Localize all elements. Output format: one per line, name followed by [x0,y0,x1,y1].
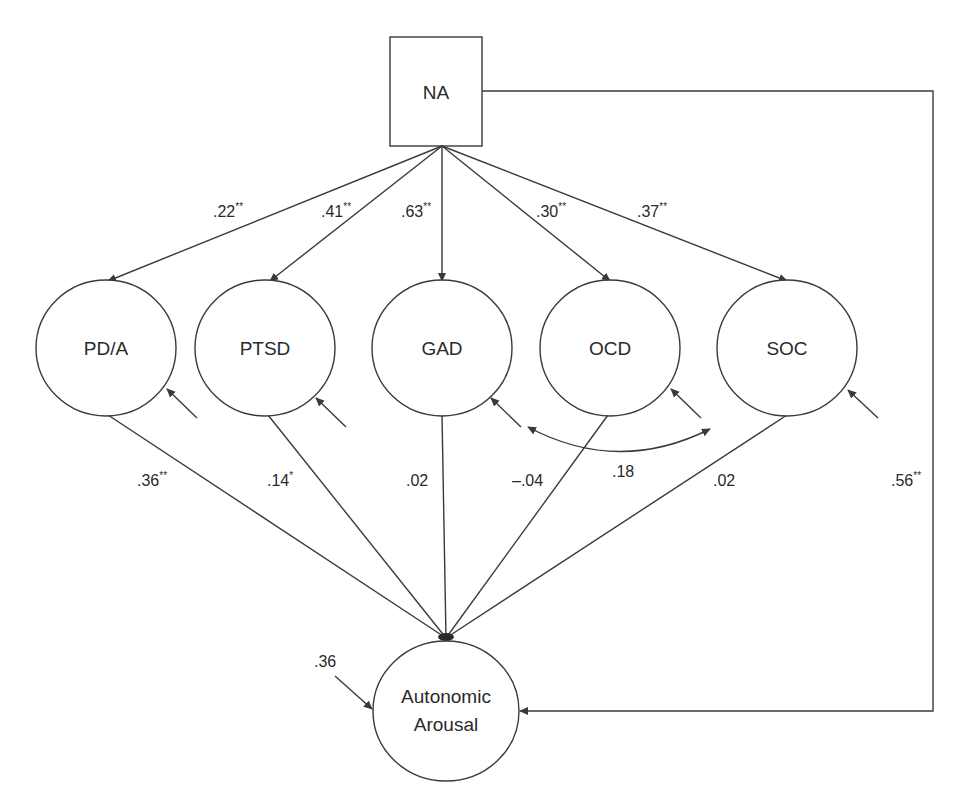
coef-ptsd-arousal: .14* [267,470,293,489]
coef-na-gad: .63** [401,201,431,220]
residual-arrow-soc [848,390,878,418]
coef-soc-arousal: .02 [713,472,735,489]
convergence-arrowhead [438,633,454,641]
node-gad-label: GAD [421,338,462,359]
coef-na-pda: .22** [213,201,243,220]
residual-arrow-gad [491,398,521,427]
node-arousal-label-line1: Autonomic [401,686,491,707]
edge-na-ocd [442,146,610,281]
coef-ocd-arousal: –.04 [512,472,543,489]
edge-na-soc [442,146,787,281]
coef-na-soc: .37** [637,201,667,220]
coef-pda-arousal: .36** [137,470,167,489]
edge-pda-arousal [108,415,446,638]
node-soc-label: SOC [766,338,807,359]
residual-arrow-ptsd [316,398,346,427]
node-soc: SOC [717,280,857,416]
arousal-residual-value: .36 [314,653,336,670]
residual-arrow-arousal [335,676,372,709]
edge-ptsd-arousal [268,415,446,638]
node-ocd-label: OCD [589,338,631,359]
edge-gad-arousal [442,415,446,638]
residual-arrow-pda [167,389,197,418]
covariance-gad-ocd [528,427,710,452]
edge-soc-arousal [446,415,787,638]
node-pda: PD/A [36,280,176,416]
node-na: NA [390,37,482,146]
node-ptsd-label: PTSD [240,338,291,359]
coef-na-arousal: .56** [891,470,921,489]
node-ptsd: PTSD [195,280,335,416]
coef-gad-arousal: .02 [406,472,428,489]
coef-na-ocd: .30** [536,201,566,220]
node-pda-label: PD/A [84,338,129,359]
coef-covariance: .18 [612,463,634,480]
edge-na-pda [108,146,442,281]
node-ocd: OCD [540,280,680,416]
node-arousal-label-line2: Arousal [414,714,478,735]
path-diagram: NA .22** .41** .63** .30** .37** PD/A PT… [0,0,967,808]
node-na-label: NA [423,82,450,103]
edge-na-arousal [482,91,933,711]
edge-ocd-arousal [446,415,608,638]
coef-na-ptsd: .41** [321,201,351,220]
node-gad: GAD [372,280,512,416]
residual-arrow-ocd [671,389,701,418]
node-arousal: Autonomic Arousal [373,641,519,781]
